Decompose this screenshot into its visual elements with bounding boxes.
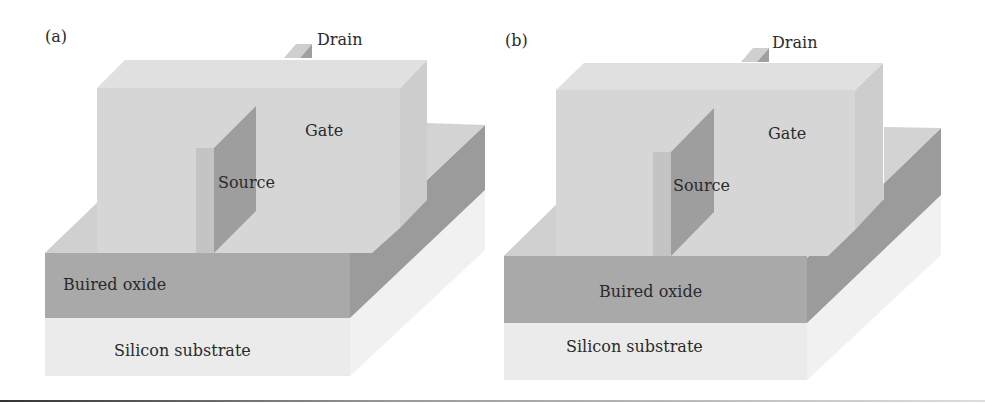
gate-top-a [97,60,427,88]
substrate-label-b: Silicon substrate [566,337,703,356]
source-front-a [196,148,214,253]
drain-label-b: Drain [772,33,817,52]
gate-side-a [400,60,427,228]
source-label-b: Source [673,176,730,195]
gate-top-b [556,63,883,90]
panel-label-a: (a) [45,27,67,46]
source-label-a: Source [218,173,275,192]
substrate-label-a: Silicon substrate [114,341,251,360]
drain-label-a: Drain [317,30,362,49]
bottom-divider [0,400,985,402]
figure-canvas: (a) Drain Gate Source Buired oxide Silic… [0,0,985,403]
source-front-b [653,152,671,256]
gate-label-b: Gate [768,124,806,143]
panel-a: (a) Drain Gate Source Buired oxide Silic… [45,27,485,376]
buried-oxide-label-b: Buired oxide [599,282,702,301]
buried-oxide-label-a: Buired oxide [63,275,166,294]
panel-b: (b) Drain Gate Source Buired oxide Silic… [504,31,941,380]
gate-label-a: Gate [305,121,343,140]
gate-step-a [45,203,97,253]
gate-step-b [504,205,556,256]
panel-label-b: (b) [505,31,528,50]
